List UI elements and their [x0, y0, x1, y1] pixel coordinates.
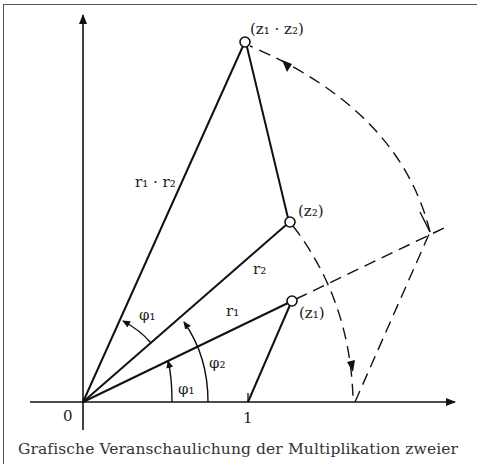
- point-product: [240, 37, 250, 47]
- point-z2: [285, 217, 295, 227]
- label-z1: (z₁): [299, 304, 325, 322]
- vector-r1r2: [83, 46, 243, 402]
- label-unit: 1: [243, 409, 253, 427]
- label-phi2: φ₂: [209, 354, 226, 372]
- dashed-foot-construction: [355, 232, 430, 402]
- dashed-construction-short: [420, 212, 430, 232]
- vector-r2: [83, 225, 286, 402]
- angle-phi1-lower-arc: [168, 361, 172, 402]
- arc-arrowhead-up: [282, 60, 292, 72]
- label-origin: 0: [63, 407, 73, 425]
- label-r2: r₂: [253, 260, 266, 278]
- figure-caption: Grafische Veranschaulichung der Multipli…: [18, 440, 458, 458]
- point-z1: [287, 296, 297, 306]
- label-r1r2: r₁ · r₂: [135, 173, 176, 191]
- label-product: (z₁ · z₂): [250, 20, 304, 38]
- segment-z2-product: [247, 47, 288, 218]
- dashed-arc-construction-to-product: [250, 46, 430, 232]
- label-r1: r₁: [226, 302, 239, 320]
- angle-phi1-upper-arc: [123, 321, 151, 343]
- label-phi1-lower: φ₁: [178, 380, 195, 398]
- label-z2: (z₂): [298, 202, 324, 220]
- label-phi1-upper: φ₁: [139, 306, 156, 324]
